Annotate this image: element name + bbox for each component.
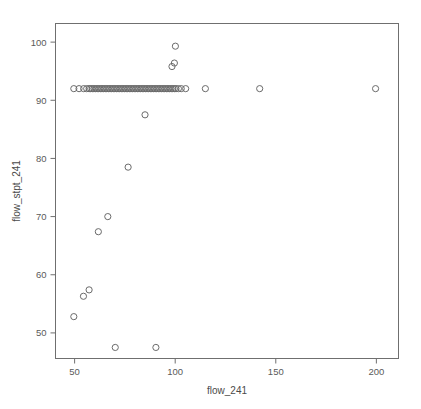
y-tick-label: 50 (36, 327, 47, 338)
plot-canvas: 50100150200 5060708090100 flow_241 flow_… (0, 0, 421, 409)
x-tick-label: 100 (167, 366, 183, 377)
x-axis-label: flow_241 (207, 385, 247, 396)
scatter-plot-figure: 50100150200 5060708090100 flow_241 flow_… (0, 0, 421, 409)
y-tick-label: 100 (31, 37, 47, 48)
y-tick-label: 60 (36, 269, 47, 280)
x-tick-label: 150 (268, 366, 284, 377)
y-tick-label: 80 (36, 153, 47, 164)
y-tick-label: 90 (36, 95, 47, 106)
x-tick-label: 200 (368, 366, 384, 377)
y-tick-label: 70 (36, 211, 47, 222)
x-tick-label: 50 (69, 366, 80, 377)
plot-background (0, 0, 421, 409)
y-axis-label: flow_stpt_241 (11, 160, 22, 222)
